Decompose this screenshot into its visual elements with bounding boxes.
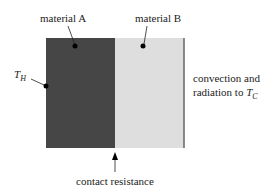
material-a-block [46, 38, 115, 148]
t-cold-subscript: C [252, 92, 257, 101]
material-b-block [115, 38, 184, 148]
t-hot-dot [44, 84, 49, 89]
convection-text: radiation to [193, 86, 246, 98]
contact-arrow-head-icon [112, 152, 118, 160]
t-hot-leader [31, 79, 44, 85]
contact-resistance-label: contact resistance [76, 175, 154, 188]
convection-label-line1: convection and [193, 72, 260, 85]
t-hot-label: TH [14, 68, 26, 85]
material-a-dot [73, 44, 78, 49]
material-a-label: material A [40, 12, 86, 25]
material-b-label: material B [135, 12, 181, 25]
material-b-dot [141, 44, 146, 49]
convection-label-line2: radiation to TC [193, 86, 258, 103]
t-hot-subscript: H [20, 74, 26, 83]
